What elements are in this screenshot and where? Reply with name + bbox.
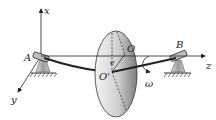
label-o: O (127, 43, 135, 54)
label-b: B (175, 39, 183, 50)
rotor-diagram: x y z A B O O' e ω (0, 0, 216, 120)
bearing-support-b (164, 50, 191, 77)
label-y: y (10, 94, 17, 105)
label-z: z (205, 60, 212, 71)
label-o-prime: O' (99, 71, 110, 82)
shaft-left (44, 58, 100, 71)
bearing-support-a (30, 52, 57, 77)
label-omega: ω (145, 78, 153, 89)
label-a: A (23, 52, 31, 63)
label-e: e (110, 58, 115, 67)
label-x: x (44, 5, 50, 16)
